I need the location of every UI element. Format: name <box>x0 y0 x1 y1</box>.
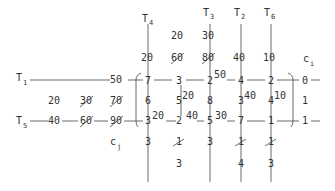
column-label-t3: T 3 <box>203 7 214 21</box>
cost-cell: 7 <box>145 75 151 86</box>
cj-value: 3 <box>207 136 213 147</box>
cost-cell: 1 <box>268 115 274 126</box>
cost-cell: 2 <box>268 75 274 86</box>
column-label-t2: T 2 <box>234 7 245 21</box>
column-label-t6: T 6 <box>264 7 275 21</box>
allocation: 40 <box>186 110 198 121</box>
cj-value-struck: 1 <box>238 136 244 147</box>
supply-value-struck: 90 <box>110 115 122 126</box>
supply-value: 50 <box>110 74 122 85</box>
svg-text:c: c <box>110 136 116 147</box>
svg-text:c: c <box>303 53 309 64</box>
svg-text:5: 5 <box>23 122 27 130</box>
supply-value: 40 <box>48 115 60 126</box>
supply-value-struck: 60 <box>80 115 92 126</box>
cj-value: 3 <box>145 136 151 147</box>
left-bracket <box>136 73 141 127</box>
cj-value: 3 <box>176 158 182 169</box>
svg-text:T: T <box>234 7 240 18</box>
svg-text:j: j <box>117 143 121 151</box>
cost-cell: 6 <box>145 95 151 106</box>
demand-value: 20 <box>141 52 153 63</box>
cj-value-struck: 1 <box>176 136 182 147</box>
ci-label: c i <box>303 53 314 68</box>
demand-value-struck: 60 <box>171 52 183 63</box>
svg-text:3: 3 <box>210 13 214 21</box>
allocation: 50 <box>214 69 226 80</box>
svg-text:i: i <box>310 60 314 68</box>
demand-value: 20 <box>171 30 183 41</box>
cj-label: c j <box>110 136 121 151</box>
allocation: 20 <box>152 110 164 121</box>
supply-value-struck: 70 <box>110 95 122 106</box>
right-bracket <box>288 73 293 127</box>
cost-cell: 3 <box>176 75 182 86</box>
row-label-t1: T 1 <box>16 72 27 87</box>
supply-value: 20 <box>48 95 60 106</box>
svg-text:6: 6 <box>271 13 275 21</box>
cost-cell: 3 <box>145 115 151 126</box>
cost-cell: 2 <box>207 75 213 86</box>
demand-value: 30 <box>202 30 214 41</box>
cost-cell: 7 <box>238 115 244 126</box>
cj-value: 4 <box>238 158 244 169</box>
svg-text:T: T <box>203 7 209 18</box>
svg-text:4: 4 <box>149 19 153 27</box>
svg-text:T: T <box>16 115 22 126</box>
allocation: 30 <box>215 110 227 121</box>
row-label-t5: T 5 <box>16 115 27 130</box>
allocation: 40 <box>244 90 256 101</box>
svg-text:1: 1 <box>23 79 27 87</box>
cost-cell: 4 <box>238 75 244 86</box>
ci-value: 0 <box>302 75 308 86</box>
svg-text:T: T <box>142 13 148 24</box>
demand-value: 40 <box>233 52 245 63</box>
allocation: 20 <box>182 90 194 101</box>
allocation: 10 <box>274 90 286 101</box>
cost-cell: 8 <box>207 95 213 106</box>
transportation-diagram: T 4 T 3 T 2 T 6 T 1 T 5 c i c j 20 30 20… <box>0 0 335 191</box>
supply-value-struck: 30 <box>80 95 92 106</box>
svg-text:T: T <box>264 7 270 18</box>
svg-text:2: 2 <box>241 13 245 21</box>
cj-value-struck: 1 <box>268 136 274 147</box>
cj-value: 3 <box>268 158 274 169</box>
ci-value: 1 <box>302 95 308 106</box>
demand-value: 10 <box>263 52 275 63</box>
demand-value-struck: 80 <box>202 52 214 63</box>
svg-text:T: T <box>16 72 22 83</box>
cost-cell: 5 <box>207 115 213 126</box>
cost-cell: 2 <box>176 115 182 126</box>
ci-value: 1 <box>302 115 308 126</box>
